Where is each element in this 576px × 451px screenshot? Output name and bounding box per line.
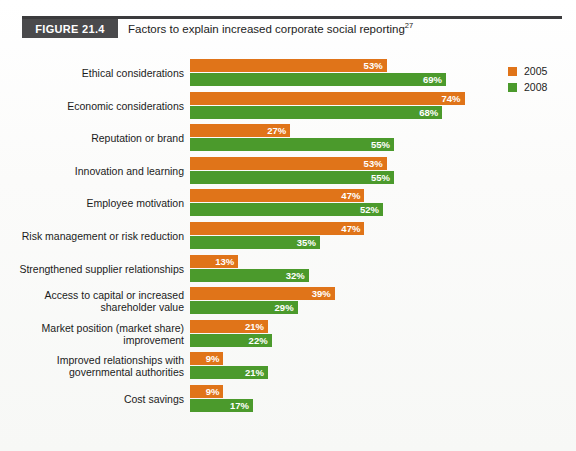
bar-value-label: 55% xyxy=(371,172,394,183)
bar-2008: 29% xyxy=(190,301,298,314)
bar-2008: 69% xyxy=(190,73,446,86)
bar-value-label: 29% xyxy=(275,302,298,313)
bar-2005: 21% xyxy=(190,320,268,333)
chart-category-group: Economic considerations74%68% xyxy=(0,92,576,120)
category-label: Access to capital or increasedshareholde… xyxy=(8,289,184,313)
bar-value-label: 21% xyxy=(245,321,268,332)
figure-page: FIGURE 21.4 Factors to explain increased… xyxy=(0,0,576,451)
category-label-line: Innovation and learning xyxy=(8,165,184,177)
bar-2005: 27% xyxy=(190,124,290,137)
chart-category-group: Innovation and learning53%55% xyxy=(0,157,576,185)
category-label-line: Ethical considerations xyxy=(8,67,184,79)
bar-value-label: 53% xyxy=(364,158,387,169)
category-label-line: Market position (market share) xyxy=(8,322,184,334)
bar-value-label: 74% xyxy=(442,93,465,104)
bar-value-label: 68% xyxy=(419,107,442,118)
chart-category-group: Cost savings9%17% xyxy=(0,385,576,413)
bar-2008: 52% xyxy=(190,203,383,216)
bar-2008: 32% xyxy=(190,269,309,282)
category-label-line: Cost savings xyxy=(8,393,184,405)
category-label: Employee motivation xyxy=(8,197,184,209)
bar-value-label: 22% xyxy=(249,335,272,346)
category-label: Improved relationships withgovernmental … xyxy=(8,354,184,378)
category-label-line: Employee motivation xyxy=(8,197,184,209)
bar-value-label: 69% xyxy=(423,74,446,85)
bar-2008: 68% xyxy=(190,106,442,119)
category-label-line: Reputation or brand xyxy=(8,132,184,144)
figure-number-badge: FIGURE 21.4 xyxy=(22,19,118,38)
bar-value-label: 13% xyxy=(215,256,238,267)
bar-2005: 47% xyxy=(190,189,364,202)
bar-2005: 53% xyxy=(190,59,387,72)
category-label: Innovation and learning xyxy=(8,165,184,177)
category-label-line: improvement xyxy=(8,334,184,346)
bar-value-label: 17% xyxy=(230,400,253,411)
bar-value-label: 52% xyxy=(360,204,383,215)
category-label-line: Access to capital or increased xyxy=(8,289,184,301)
bar-value-label: 35% xyxy=(297,237,320,248)
bar-value-label: 47% xyxy=(341,190,364,201)
bar-value-label: 9% xyxy=(206,386,224,397)
chart-category-group: Improved relationships withgovernmental … xyxy=(0,352,576,380)
figure-title-text: Factors to explain increased corporate s… xyxy=(128,23,405,35)
bar-value-label: 21% xyxy=(245,367,268,378)
bar-2008: 22% xyxy=(190,334,272,347)
category-label-line: Economic considerations xyxy=(8,100,184,112)
chart-category-group: Strengthened supplier relationships13%32… xyxy=(0,255,576,283)
chart-category-group: Ethical considerations53%69% xyxy=(0,59,576,87)
category-label-line: shareholder value xyxy=(8,301,184,313)
bar-2008: 21% xyxy=(190,366,268,379)
category-label: Reputation or brand xyxy=(8,132,184,144)
category-label: Market position (market share)improvemen… xyxy=(8,322,184,346)
bar-value-label: 27% xyxy=(267,125,290,136)
category-label: Cost savings xyxy=(8,393,184,405)
category-label-line: Strengthened supplier relationships xyxy=(8,263,184,275)
chart-category-group: Access to capital or increasedshareholde… xyxy=(0,287,576,315)
category-label: Strengthened supplier relationships xyxy=(8,263,184,275)
bar-2005: 13% xyxy=(190,255,238,268)
category-label-line: Improved relationships with xyxy=(8,354,184,366)
chart-category-group: Risk management or risk reduction47%35% xyxy=(0,222,576,250)
chart-category-group: Market position (market share)improvemen… xyxy=(0,320,576,348)
chart-category-group: Reputation or brand27%55% xyxy=(0,124,576,152)
bar-value-label: 39% xyxy=(312,288,335,299)
figure-title-footnote-ref: 27 xyxy=(405,21,413,30)
bar-value-label: 47% xyxy=(341,223,364,234)
category-label-line: governmental authorities xyxy=(8,366,184,378)
category-label: Ethical considerations xyxy=(8,67,184,79)
category-label: Economic considerations xyxy=(8,100,184,112)
bar-2005: 53% xyxy=(190,157,387,170)
bar-chart: Ethical considerations53%69%Economic con… xyxy=(0,52,576,451)
bar-2008: 17% xyxy=(190,399,253,412)
category-label-line: Risk management or risk reduction xyxy=(8,230,184,242)
bar-2005: 47% xyxy=(190,222,364,235)
bar-2005: 39% xyxy=(190,287,335,300)
bar-2008: 55% xyxy=(190,171,394,184)
bar-2008: 55% xyxy=(190,138,394,151)
bar-2008: 35% xyxy=(190,236,320,249)
bar-2005: 9% xyxy=(190,352,223,365)
bar-2005: 9% xyxy=(190,385,223,398)
bar-value-label: 55% xyxy=(371,139,394,150)
category-label: Risk management or risk reduction xyxy=(8,230,184,242)
bar-value-label: 32% xyxy=(286,270,309,281)
chart-category-group: Employee motivation47%52% xyxy=(0,189,576,217)
figure-title: Factors to explain increased corporate s… xyxy=(128,21,413,35)
bar-value-label: 9% xyxy=(206,353,224,364)
bar-value-label: 53% xyxy=(364,60,387,71)
bar-2005: 74% xyxy=(190,92,465,105)
